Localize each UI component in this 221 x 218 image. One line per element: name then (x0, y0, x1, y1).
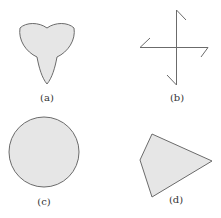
label-d: (d) (169, 194, 183, 205)
panel-a: (a) (20, 24, 75, 104)
circle-shape (9, 117, 79, 187)
label-a: (a) (40, 92, 54, 103)
trefoil-shape (20, 24, 75, 85)
hook-right (201, 48, 208, 58)
hook-top (177, 10, 187, 20)
panel-d: (d) (140, 134, 212, 205)
label-b: (b) (170, 92, 184, 103)
panel-b: (b) (140, 10, 208, 103)
quadrilateral-shape (140, 134, 212, 197)
figure-canvas: (a) (b) (c) (d) (0, 0, 221, 218)
hook-bottom (167, 75, 177, 85)
hook-left (140, 38, 150, 48)
panel-c: (c) (9, 117, 79, 207)
label-c: (c) (37, 196, 51, 207)
